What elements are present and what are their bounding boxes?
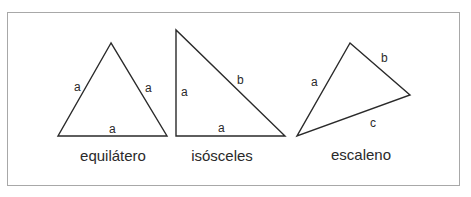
equilateral-caption: equilátero bbox=[80, 147, 146, 164]
equilateral-side-base-label: a bbox=[109, 122, 116, 136]
equilateral-side-right-label: a bbox=[145, 81, 152, 95]
scalene-side-a-label: a bbox=[311, 75, 318, 89]
scalene-side-b-label: b bbox=[381, 51, 388, 65]
scalene-caption: escaleno bbox=[331, 146, 391, 163]
scalene-side-c-label: c bbox=[370, 116, 376, 130]
triangle-isosceles-shape bbox=[176, 30, 285, 136]
triangle-scalene-shape bbox=[297, 43, 410, 136]
isosceles-side-hypotenuse-label: b bbox=[237, 73, 244, 87]
isosceles-caption: isósceles bbox=[191, 147, 253, 164]
triangle-scalene: a b c escaleno bbox=[297, 43, 410, 163]
isosceles-side-left-label: a bbox=[181, 85, 188, 99]
isosceles-side-base-label: a bbox=[218, 121, 225, 135]
triangle-isosceles: a b a isósceles bbox=[176, 30, 285, 164]
triangle-equilateral: a a a equilátero bbox=[58, 43, 167, 164]
triangle-diagram: a a a equilátero a b a isósceles a b c e… bbox=[0, 0, 471, 197]
equilateral-side-left-label: a bbox=[74, 80, 81, 94]
